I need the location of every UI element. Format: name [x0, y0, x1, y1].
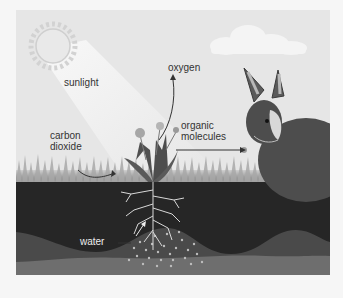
oxygen-label: oxygen: [168, 62, 200, 73]
organic-molecules-label-line1: organic: [181, 120, 214, 131]
dandelion-flower: [156, 122, 164, 130]
water-label: water: [80, 236, 104, 247]
dandelion-bud: [173, 127, 179, 133]
dandelion-flower: [135, 128, 145, 138]
carbon-dioxide-label-line1: carbon: [50, 130, 81, 141]
organic-molecules-label-line2: molecules: [181, 131, 226, 142]
sunlight-label: sunlight: [64, 77, 98, 88]
diagram-frame: sunlight oxygen carbon dioxide organic m…: [16, 10, 330, 275]
carbon-dioxide-label-line2: dioxide: [50, 141, 82, 152]
